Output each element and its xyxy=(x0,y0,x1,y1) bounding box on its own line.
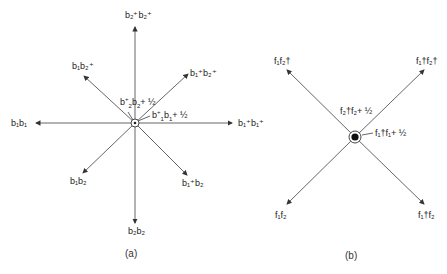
arrow-down-right xyxy=(355,137,424,204)
arrow-down-left xyxy=(83,123,135,173)
label-b2-b2: b₂b₂ xyxy=(128,226,145,236)
label-b1-b2plus: b₁b₂⁺ xyxy=(72,61,94,71)
label-f1-f2dagger: f₁f₂† xyxy=(274,56,291,66)
label-f1dagger-f2: f₁†f₂ xyxy=(418,210,435,220)
label-b1plus-b1plus: b₁⁺b₁⁺ xyxy=(238,118,264,128)
center-label-b1plus-b1-half: b+1b1+ ½ xyxy=(152,110,188,120)
panel-a-center-node xyxy=(131,119,139,127)
arrow-down-right xyxy=(135,123,187,175)
arrow-down-left xyxy=(287,137,355,204)
center-label-b2plus-b2-half: b+2b2+ ½ xyxy=(120,97,156,107)
caption-a: (a) xyxy=(125,248,137,259)
arrow-up-right xyxy=(355,70,424,137)
label-f1-f2: f₁f₂ xyxy=(275,210,287,220)
caption-b: (b) xyxy=(345,250,357,261)
center-label-f2dagger-f2-half: f₂†f₂+ ½ xyxy=(340,106,372,116)
center-label-f1dagger-f1-half: f₁†f₁+ ½ xyxy=(375,128,406,138)
label-b1-b1: b₁b₁ xyxy=(11,118,27,128)
panel-b-center-node xyxy=(349,131,361,143)
label-b1-b2: b₁b₂ xyxy=(70,176,87,186)
label-b2plus-b2plus: b₂⁺b₂⁺ xyxy=(125,10,152,20)
label-b1plus-b2: b₁⁺b₂ xyxy=(182,178,204,188)
label-f1dagger-f2dagger: f₁†f₂† xyxy=(416,56,438,66)
arrow-up-left xyxy=(287,70,355,137)
label-b1plus-b2plus: b₁⁺b₂⁺ xyxy=(190,68,217,78)
